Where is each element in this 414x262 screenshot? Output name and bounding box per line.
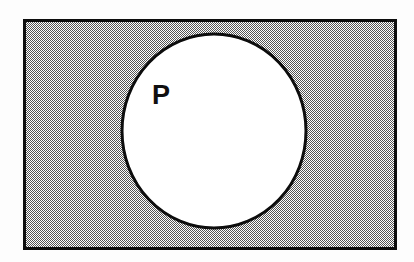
venn-diagram-figure: P [0,0,414,262]
venn-diagram-canvas: P [0,0,414,262]
set-p-circle [122,34,306,228]
set-p-label: P [152,80,170,110]
